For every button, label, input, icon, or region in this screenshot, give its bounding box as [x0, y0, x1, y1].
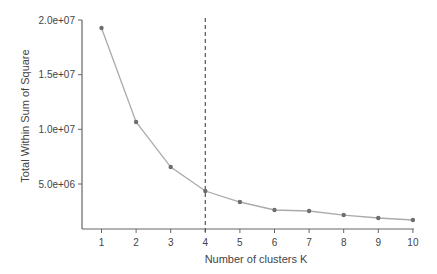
x-tick-label: 1: [99, 237, 105, 248]
y-tick-label: 5.0e+06: [39, 179, 76, 190]
y-tick-label: 1.0e+07: [39, 124, 76, 135]
data-point: [307, 209, 311, 213]
data-point: [376, 216, 380, 220]
x-tick-label: 5: [237, 237, 243, 248]
x-axis-title: Number of clusters K: [205, 253, 308, 265]
data-point: [411, 218, 415, 222]
data-point: [342, 213, 346, 217]
x-tick-label: 9: [376, 237, 382, 248]
data-point: [134, 120, 138, 124]
x-tick-label: 8: [341, 237, 347, 248]
x-tick-label: 7: [306, 237, 312, 248]
y-axis-title: Total Within Sum of Square: [19, 49, 31, 182]
x-axis: 12345678910: [82, 229, 419, 248]
x-tick-label: 2: [133, 237, 139, 248]
y-tick-label: 1.5e+07: [39, 69, 76, 80]
y-axis: 5.0e+061.0e+071.5e+072.0e+07: [39, 15, 82, 230]
x-tick-label: 3: [168, 237, 174, 248]
series-line: [102, 28, 413, 220]
data-point: [169, 165, 173, 169]
data-points: [99, 26, 415, 222]
x-tick-label: 10: [407, 237, 419, 248]
x-tick-label: 6: [272, 237, 278, 248]
data-point: [203, 189, 207, 193]
x-tick-label: 4: [203, 237, 209, 248]
y-tick-label: 2.0e+07: [39, 15, 76, 26]
data-point: [238, 200, 242, 204]
elbow-chart: 5.0e+061.0e+071.5e+072.0e+07 12345678910…: [0, 0, 437, 274]
data-point: [272, 208, 276, 212]
data-point: [99, 26, 103, 30]
